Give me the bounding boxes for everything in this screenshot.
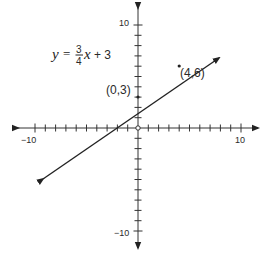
equation-equals: = — [63, 46, 70, 61]
y-min-label: −10 — [114, 228, 129, 238]
equation-rest: + 3 — [94, 48, 111, 62]
equation-x: x — [83, 46, 91, 62]
equation-label: y = 3 4 x + 3 — [50, 44, 111, 67]
point-0-3 — [136, 95, 139, 98]
x-min-label: −10 — [21, 135, 36, 145]
equation-denominator: 4 — [76, 56, 82, 67]
x-max-label: 10 — [235, 135, 245, 145]
y-max-label: 10 — [119, 18, 129, 28]
equation-y: y — [50, 46, 59, 62]
origin-marker — [136, 126, 140, 130]
equation-numerator: 3 — [76, 44, 82, 55]
point-label-4-6: (4,6) — [180, 66, 205, 80]
point-label-0-3: (0,3) — [106, 83, 131, 97]
coordinate-graph: −10 10 10 −10 (0,3) (4,6) y = 3 4 x + 3 — [0, 0, 272, 257]
